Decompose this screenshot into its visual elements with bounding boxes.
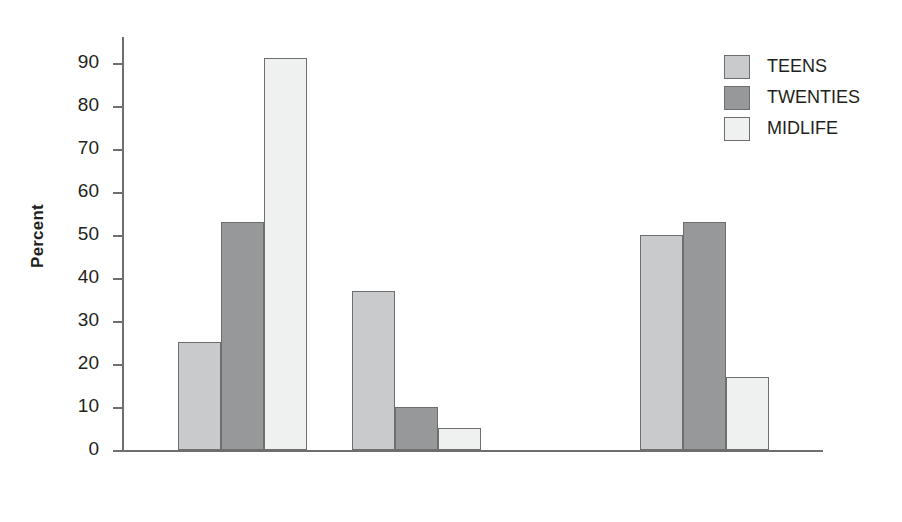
y-tick-20: 20 <box>113 364 122 366</box>
legend-swatch-twenties <box>724 86 750 110</box>
bar-twenties-yes <box>221 222 264 450</box>
y-tick-label-60: 60 <box>39 180 99 202</box>
y-tick-70: 70 <box>113 149 122 151</box>
legend-swatch-teens <box>724 55 750 79</box>
y-tick-90: 90 <box>113 63 122 65</box>
bar-twenties-yes-no <box>683 222 726 450</box>
legend-item-twenties: TWENTIES <box>724 82 860 113</box>
legend-item-teens: TEENS <box>724 51 860 82</box>
y-tick-label-30: 30 <box>39 309 99 331</box>
y-tick-label-40: 40 <box>39 266 99 288</box>
y-tick-40: 40 <box>113 278 122 280</box>
y-tick-label-20: 20 <box>39 352 99 374</box>
y-tick-label-80: 80 <box>39 94 99 116</box>
y-tick-60: 60 <box>113 192 122 194</box>
bar-teens-yes-no <box>640 235 683 450</box>
chart-legend: TEENSTWENTIESMIDLIFE <box>724 51 860 144</box>
y-tick-10: 10 <box>113 407 122 409</box>
y-tick-0: 0 <box>113 450 122 452</box>
y-tick-label-70: 70 <box>39 137 99 159</box>
legend-swatch-midlife <box>724 117 750 141</box>
bar-midlife-yes <box>264 58 307 450</box>
y-tick-50: 50 <box>113 235 122 237</box>
legend-label-twenties: TWENTIES <box>767 87 860 108</box>
y-axis-line <box>122 37 124 452</box>
y-tick-label-10: 10 <box>39 395 99 417</box>
bar-chart: Percent 0102030405060708090 YesNoYes & n… <box>0 0 902 522</box>
bar-midlife-yes-no <box>726 377 769 450</box>
plot-area: 0102030405060708090 <box>122 37 823 452</box>
bar-midlife-no <box>438 428 481 450</box>
legend-label-midlife: MIDLIFE <box>767 118 838 139</box>
y-tick-30: 30 <box>113 321 122 323</box>
y-tick-label-50: 50 <box>39 223 99 245</box>
legend-item-midlife: MIDLIFE <box>724 113 860 144</box>
bar-twenties-no <box>395 407 438 450</box>
y-tick-label-90: 90 <box>39 51 99 73</box>
y-tick-80: 80 <box>113 106 122 108</box>
y-tick-label-0: 0 <box>39 438 99 460</box>
bar-teens-yes <box>178 342 221 450</box>
legend-label-teens: TEENS <box>767 56 827 77</box>
bar-teens-no <box>352 291 395 450</box>
